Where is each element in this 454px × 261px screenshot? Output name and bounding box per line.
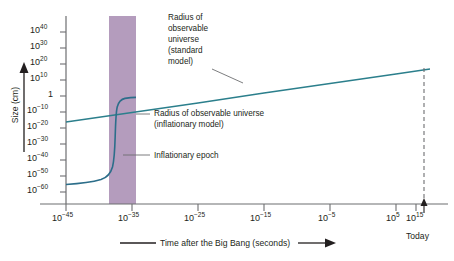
y-tick-label-1e-30: 10−30 <box>27 137 48 148</box>
y-tick-label-1e40: 1040 <box>30 25 47 36</box>
y-tick-label-1: 1 <box>48 89 53 100</box>
y-axis-ticks <box>60 32 66 192</box>
y-tick-exp-1e-60: −60 <box>37 183 48 190</box>
annotation-inflationary-epoch: Inflationary epoch <box>154 150 219 161</box>
today-label: Today <box>406 231 429 241</box>
y-tick-label-1e-40: 10−40 <box>27 153 48 164</box>
y-tick-label-1e10: 1010 <box>30 73 47 84</box>
y-tick-exp-1e-40: −40 <box>37 151 48 158</box>
annotation-inflationary-model: Radius of observable universe (inflation… <box>154 108 264 130</box>
cosmology-size-vs-time-chart: 1040 1030 1020 1010 1 10−10 10−20 10−30 … <box>0 0 454 261</box>
x-tick-label-1e-25: 10−25 <box>184 213 205 224</box>
y-tick-exp-1e40: 40 <box>40 23 47 30</box>
y-tick-exp-1e-10: −10 <box>37 103 48 110</box>
y-tick-exp-1e-20: −20 <box>37 119 48 126</box>
y-tick-exp-1e10: 10 <box>40 71 47 78</box>
y-tick-exp-1e-30: −30 <box>37 135 48 142</box>
x-tick-label-1e-15: 10−15 <box>250 213 271 224</box>
x-tick-exp-1e-35: −35 <box>128 211 139 218</box>
x-tick-label-1e-5: 10−5 <box>318 213 335 224</box>
x-tick-label-1e5: 105 <box>386 213 400 224</box>
y-tick-label-1e-50: 10−50 <box>27 169 48 180</box>
y-tick-label-1e-60: 10−60 <box>27 185 48 196</box>
x-tick-exp-1e-15: −15 <box>260 211 271 218</box>
x-axis-title: Time after the Big Bang (seconds) <box>160 238 290 248</box>
y-tick-exp-1e-50: −50 <box>37 167 48 174</box>
x-tick-label-1e15: 1015 <box>406 213 423 224</box>
y-axis-title-container: Size (cm) <box>8 74 22 148</box>
y-tick-exp-1e30: 30 <box>40 39 47 46</box>
x-tick-exp-1e-5: −5 <box>328 211 335 218</box>
x-tick-exp-1e15: 15 <box>416 211 423 218</box>
x-axis-ticks <box>66 204 416 211</box>
y-tick-label-1e-20: 10−20 <box>27 121 48 132</box>
x-tick-exp-1e-45: −45 <box>62 211 73 218</box>
y-tick-exp-1e20: 20 <box>40 55 47 62</box>
y-tick-label-1e30: 1030 <box>30 41 47 52</box>
x-tick-label-1e-45: 10−45 <box>52 213 73 224</box>
standard-model-leader-line <box>212 69 243 83</box>
inflationary-epoch-band <box>109 16 136 204</box>
annotation-standard-model: Radius of observable universe (standard … <box>168 12 208 67</box>
y-axis-title: Size (cm) <box>10 74 20 136</box>
x-tick-exp-1e-25: −25 <box>194 211 205 218</box>
y-tick-label-1e-10: 10−10 <box>27 105 48 116</box>
x-tick-exp-1e5: 5 <box>396 211 400 218</box>
y-tick-label-1e20: 1020 <box>30 57 47 68</box>
x-tick-label-1e-35: 10−35 <box>118 213 139 224</box>
